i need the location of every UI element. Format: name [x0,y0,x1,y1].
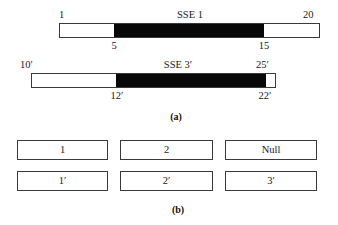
sse-bar-1-segment-leading-white [60,24,114,37]
box-row1-col3[interactable]: Null [225,140,317,160]
box-row1-col2-label: 2 [164,145,169,156]
sse-bar-1-region-start-label: 5 [111,41,116,52]
sse-bar-1-end-label: 20 [303,10,314,21]
sse-bar-2-region-end-label: 22′ [259,91,272,102]
sse-bar-2-title: SSE 3′ [164,60,192,71]
sse-bar-2-region-start-label: 12′ [111,91,124,102]
sse-bar-2 [31,73,276,88]
box-row2-col3-label: 3′ [267,176,275,187]
sse-bar-2-segment-core-black [116,74,266,87]
box-row1-col1[interactable]: 1 [17,140,108,160]
sse-bar-2-start-label: 10′ [20,60,33,71]
box-row2-col1[interactable]: 1′ [17,171,108,191]
sse-bar-1 [59,23,320,38]
figure-root: 1 SSE 1 20 5 15 10′ SSE 3′ 25′ 12′ 22 [0,0,338,225]
box-row2-col2-label: 2′ [163,176,171,187]
sse-bar-2-end-label: 25′ [256,60,269,71]
sse-bar-1-segment-core-black [114,24,264,37]
box-row1-col1-label: 1 [60,145,65,156]
sse-bar-1-segment-trailing-white [264,24,319,37]
box-row1-col3-label: Null [262,145,281,156]
sse-bar-1-title: SSE 1 [177,10,203,21]
box-row2-col2[interactable]: 2′ [120,171,213,191]
sse-bar-1-region-end-label: 15 [259,41,270,52]
caption-b: (b) [172,205,184,215]
sse-bar-2-segment-trailing-white [266,74,275,87]
caption-a: (a) [170,112,182,122]
box-row1-col2[interactable]: 2 [120,140,213,160]
box-row2-col1-label: 1′ [59,176,67,187]
sse-bar-2-segment-leading-white [32,74,116,87]
box-row2-col3[interactable]: 3′ [225,171,317,191]
sse-bar-1-start-label: 1 [59,10,64,21]
